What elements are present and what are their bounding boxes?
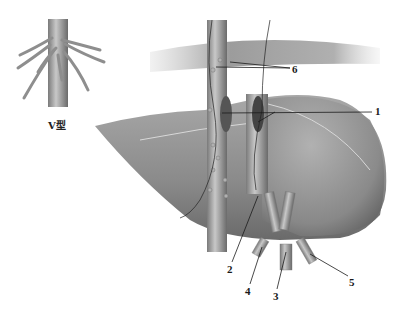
anatomical-illustration — [0, 0, 394, 309]
label-2: 2 — [227, 264, 233, 275]
label-3: 3 — [273, 291, 279, 302]
inset-type-v — [18, 19, 104, 107]
diaphragm — [150, 40, 380, 72]
label-5: 5 — [349, 277, 355, 288]
label-1: 1 — [375, 106, 381, 117]
inset-caption: V型 — [48, 117, 66, 132]
inferior-vena-cava — [207, 20, 227, 252]
label-6: 6 — [292, 64, 298, 75]
liver-right-lobe — [262, 97, 384, 236]
label-4: 4 — [245, 286, 251, 297]
